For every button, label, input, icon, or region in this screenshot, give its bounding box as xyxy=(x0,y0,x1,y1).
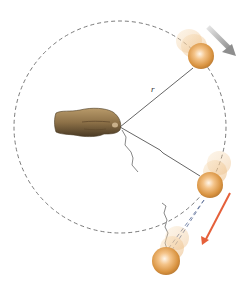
string-to-right-ball xyxy=(120,127,200,176)
ball-released xyxy=(152,226,189,275)
ball-release-point xyxy=(197,151,231,198)
ball-top xyxy=(176,29,214,69)
tangential-velocity-arrow-icon xyxy=(201,193,230,245)
radius-label: r xyxy=(151,84,155,94)
hand-icon xyxy=(55,108,121,136)
circular-motion-diagram: r xyxy=(0,0,248,293)
string-to-top-ball xyxy=(120,68,193,127)
